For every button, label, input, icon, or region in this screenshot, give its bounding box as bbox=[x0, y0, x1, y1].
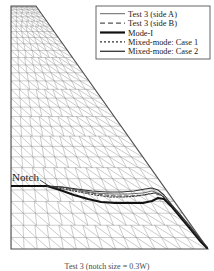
legend-label-5: Mixed-mode: Case 2 bbox=[128, 47, 198, 56]
figure-caption: Test 3 (notch size = 0.3W) bbox=[0, 262, 214, 271]
figure-root: Notch Test 3 (side A)Test 3 (side B)Mode… bbox=[0, 0, 214, 271]
legend: Test 3 (side A)Test 3 (side B)Mode-IMixe… bbox=[96, 6, 210, 59]
notch-label: Notch bbox=[12, 171, 39, 183]
legend-label-3: Mode-I bbox=[128, 29, 153, 38]
legend-label-4: Mixed-mode: Case 1 bbox=[128, 38, 198, 47]
legend-label-1: Test 3 (side A) bbox=[128, 10, 177, 19]
legend-label-2: Test 3 (side B) bbox=[128, 19, 177, 28]
fem-mesh-figure: Notch Test 3 (side A)Test 3 (side B)Mode… bbox=[0, 0, 214, 271]
